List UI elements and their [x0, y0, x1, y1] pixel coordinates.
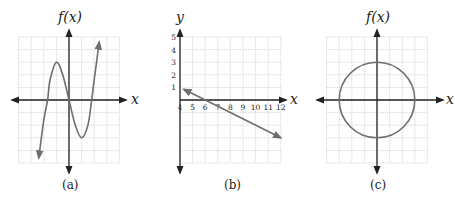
y-axis-label-b: y: [175, 9, 185, 25]
x-tick-labels-b: 456789101112: [178, 103, 286, 112]
x-tick-label: 5: [190, 103, 195, 112]
figure-canvas: f(x) x (a) 456789101112 12345 y x (b) f(…: [0, 0, 455, 205]
x-tick-label: 4: [178, 103, 183, 112]
y-tick-labels-b: 12345: [171, 33, 176, 92]
y-axis-label-c: f(x): [365, 9, 390, 25]
x-tick-label: 8: [228, 103, 233, 112]
caption-a: (a): [62, 178, 79, 192]
y-tick-label: 1: [171, 83, 176, 92]
y-tick-label: 4: [171, 46, 176, 55]
x-tick-label: 11: [263, 103, 273, 112]
y-tick-label: 3: [171, 58, 176, 67]
x-tick-label: 9: [241, 103, 246, 112]
graph-c: f(x) x (c): [317, 9, 454, 192]
caption-b: (b): [224, 178, 241, 192]
graph-a: f(x) x (a): [12, 9, 139, 192]
x-axis-label-c: x: [446, 91, 454, 107]
y-tick-label: 5: [171, 33, 176, 42]
x-tick-label: 6: [203, 103, 208, 112]
x-axis-label-b: x: [290, 91, 298, 107]
graph-b: 456789101112 12345 y x (b): [171, 9, 298, 192]
x-tick-label: 12: [276, 103, 286, 112]
y-axis-label-a: f(x): [57, 9, 82, 25]
linear-line: [184, 89, 281, 138]
caption-c: (c): [370, 178, 386, 192]
y-tick-label: 2: [171, 71, 176, 80]
x-tick-label: 10: [251, 103, 261, 112]
x-axis-label-a: x: [131, 91, 139, 107]
